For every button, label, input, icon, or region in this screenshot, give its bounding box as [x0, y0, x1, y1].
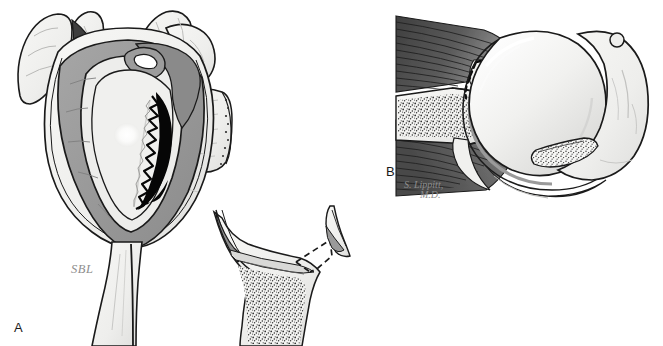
- panel-a-illustration: [18, 11, 350, 346]
- detached-bone-fragment: [326, 206, 350, 257]
- panel-label-b: B: [386, 164, 395, 179]
- glenoid-bare-spot: [114, 123, 140, 147]
- bicipital-groove-marker: [610, 33, 624, 47]
- cross-section-inset: [214, 210, 332, 346]
- signature-line-2: M.D.: [404, 190, 443, 200]
- figure-canvas: A B SBL S. Lippitt, M.D.: [0, 0, 663, 346]
- sbl-label: SBL: [71, 262, 93, 277]
- scapular-neck-and-stem: [92, 242, 142, 346]
- panel-b-illustration: [396, 16, 648, 198]
- panel-label-a: A: [14, 320, 23, 335]
- artist-signature: S. Lippitt, M.D.: [404, 180, 443, 200]
- anatomy-illustration: [0, 0, 663, 346]
